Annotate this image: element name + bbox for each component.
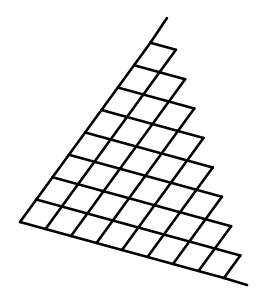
staircase-grid-diagram xyxy=(0,0,262,305)
